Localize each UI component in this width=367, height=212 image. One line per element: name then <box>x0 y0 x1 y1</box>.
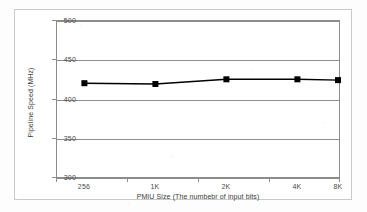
line-chart: 500 450 400 350 300 Pipeline Speed (MHz)… <box>0 0 367 212</box>
x-tick-label-256: 256 <box>64 183 104 190</box>
x-tick-label-8k: 8K <box>318 183 358 190</box>
x-tick-mark-3 <box>269 178 270 182</box>
y-tick-label-500: 500 <box>36 17 76 24</box>
y-tick-label-450: 450 <box>36 56 76 63</box>
x-tick-mark-1 <box>127 178 128 182</box>
x-axis-title: PMIU Size (The numbebr of input bits) <box>56 193 340 200</box>
y-tick-label-350: 350 <box>36 135 76 142</box>
y-axis-title: Pipeline Speed (MHz) <box>27 43 34 163</box>
x-tick-label-2k: 2K <box>206 183 246 190</box>
figure-root: 500 450 400 350 300 Pipeline Speed (MHz)… <box>0 0 367 212</box>
y-tick-label-400: 400 <box>36 96 76 103</box>
x-tick-label-4k: 4K <box>277 183 317 190</box>
x-tick-mark-0 <box>56 178 57 182</box>
x-tick-mark-2 <box>198 178 199 182</box>
x-tick-label-1k: 1K <box>135 183 175 190</box>
x-tick-mark-4 <box>339 178 340 182</box>
